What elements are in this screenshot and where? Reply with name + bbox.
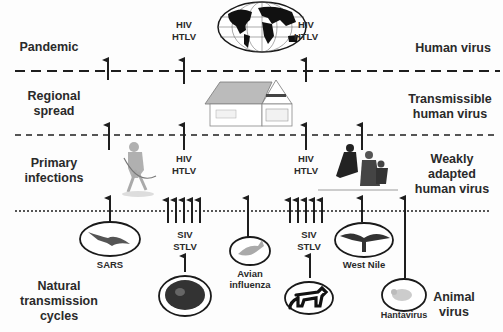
stage-primary-line1: Primary [14, 156, 94, 171]
virus-label-primary-right: HIV HTLV [290, 153, 322, 177]
crow-image [335, 223, 393, 257]
virus-label-pandemic-right: HIV HTLV [290, 19, 322, 43]
regional-arrows [109, 125, 362, 150]
type-human-virus: Human virus [408, 41, 498, 56]
virus-siv: SIV [292, 229, 326, 241]
stage-primary-infections: Primary infections [14, 156, 94, 186]
virus-htlv: HTLV [168, 31, 200, 43]
type-weakly-adapted: Weakly adapted human virus [402, 152, 502, 196]
stage-natural-line1: Natural [14, 279, 104, 294]
type-animal-line1: Animal [424, 290, 484, 305]
hunter-image [122, 142, 156, 197]
stage-regional-spread: Regional spread [14, 89, 94, 119]
type-weakly-line1: Weakly [402, 152, 502, 167]
chimpanzee-image [159, 276, 211, 316]
stage-natural-line2: transmission [14, 294, 104, 309]
caption-avian-influenza: Avian influenza [224, 268, 276, 290]
caption-sars: SARS [90, 259, 130, 270]
type-transmissible-line1: Transmissible [400, 92, 500, 107]
rodent-image [382, 279, 426, 311]
virus-label-siv-left: SIV STLV [168, 229, 202, 253]
virus-htlv: HTLV [290, 31, 322, 43]
virus-hiv: HIV [168, 19, 200, 31]
virus-label-primary-left: HIV HTLV [168, 153, 200, 177]
virus-label-pandemic-left: HIV HTLV [168, 19, 200, 43]
type-transmissible: Transmissible human virus [400, 92, 500, 122]
type-animal-line2: virus [424, 305, 484, 320]
stage-natural-transmission: Natural transmission cycles [14, 279, 104, 323]
virus-htlv: HTLV [168, 165, 200, 177]
house-image [205, 80, 292, 126]
virus-stlv: STLV [292, 241, 326, 253]
stage-primary-line2: infections [14, 171, 94, 186]
caption-hantavirus: Hantavirus [376, 310, 432, 321]
virus-hiv: HIV [290, 153, 322, 165]
stage-regional-line2: spread [14, 104, 94, 119]
caption-avian-line1: Avian [224, 268, 276, 279]
virus-hiv: HIV [290, 19, 322, 31]
bird-image [230, 237, 270, 265]
type-transmissible-line2: human virus [400, 107, 500, 122]
stage-natural-line3: cycles [14, 309, 104, 324]
virus-htlv: HTLV [290, 165, 322, 177]
virus-label-siv-right: SIV STLV [292, 229, 326, 253]
type-weakly-line3: human virus [402, 182, 502, 197]
type-animal-virus: Animal virus [424, 290, 484, 320]
caption-west-nile: West Nile [338, 259, 390, 270]
type-weakly-line2: adapted [402, 167, 502, 182]
monkey-image [285, 282, 333, 314]
bat-image [80, 222, 140, 256]
virus-hiv: HIV [168, 153, 200, 165]
stage-pandemic: Pandemic [14, 40, 84, 55]
family-image [318, 144, 398, 190]
virus-stlv: STLV [168, 241, 202, 253]
virus-siv: SIV [168, 229, 202, 241]
stage-regional-line1: Regional [14, 89, 94, 104]
caption-avian-line2: influenza [224, 279, 276, 290]
